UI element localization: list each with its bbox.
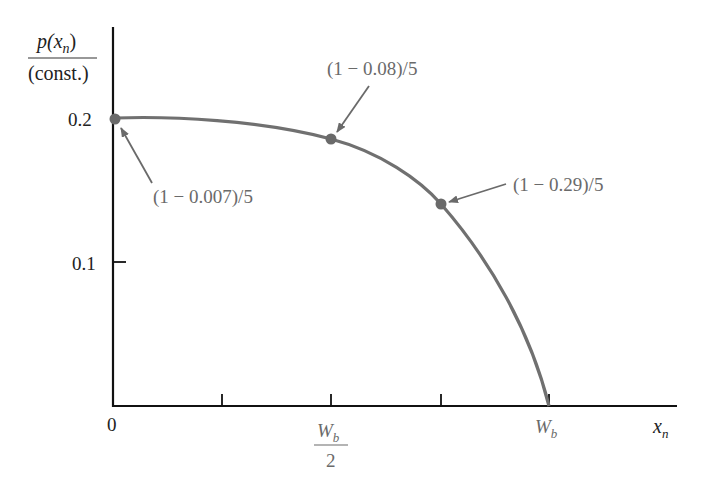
y-axis-label-numerator: p(xn): [35, 30, 76, 56]
arrow-1: [121, 128, 152, 183]
y-tick-label-0.2: 0.2: [68, 109, 92, 130]
chart: (1 − 0.007)/5 (1 − 0.08)/5 (1 − 0.29)/5 …: [0, 0, 702, 488]
y-tick-label-0.1: 0.1: [72, 253, 96, 274]
x-tick-label-wb: Wb: [535, 416, 558, 441]
x-axis-label: xn: [652, 415, 668, 441]
x-tick-label-0: 0: [107, 414, 117, 435]
annotation-1: (1 − 0.007)/5: [153, 186, 253, 208]
y-axis-label-denominator: (const.): [28, 62, 89, 85]
point-3: [436, 199, 447, 210]
curve: [115, 118, 549, 406]
point-2: [326, 134, 337, 145]
x-tick-label-wb-half-den: 2: [326, 450, 336, 471]
arrow-2: [337, 86, 369, 132]
point-1: [110, 114, 121, 125]
annotation-2: (1 − 0.08)/5: [327, 58, 417, 80]
annotation-3: (1 − 0.29)/5: [513, 174, 603, 196]
x-tick-label-wb-half-num: Wb: [317, 420, 340, 445]
arrow-3: [449, 184, 506, 202]
